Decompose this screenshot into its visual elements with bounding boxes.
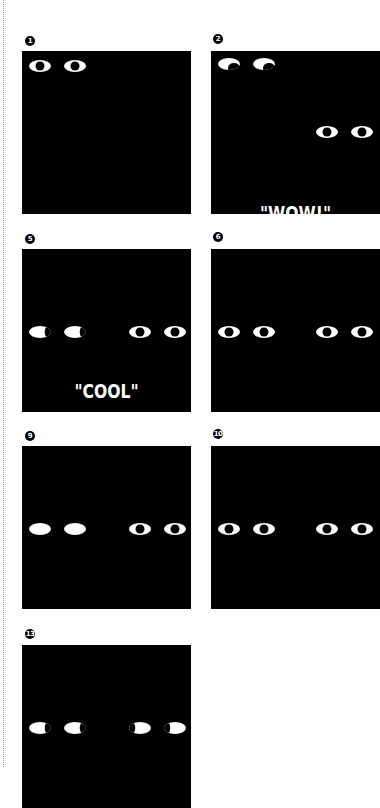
pupil-icon (358, 128, 367, 137)
pupil-icon (164, 722, 170, 734)
pupil-icon (45, 326, 51, 338)
pupil-icon (358, 328, 367, 337)
pupil-icon (171, 525, 180, 534)
eye-open-icon (351, 126, 373, 138)
eye-open-icon (351, 523, 373, 535)
eye-solid-icon (29, 523, 51, 535)
eye-crescent-left-icon (29, 722, 51, 734)
pupil-icon (136, 525, 145, 534)
pupil-icon (36, 62, 45, 71)
panel-number-1: 1 (25, 36, 35, 46)
eye-glance-icon (218, 58, 240, 70)
pupil-icon (80, 326, 86, 338)
panel-number-13: 13 (25, 629, 35, 639)
panel-number-5: 5 (25, 234, 35, 244)
eye-glance-icon (253, 58, 275, 70)
eye-open-icon (218, 326, 240, 338)
panel-number-9: 9 (25, 431, 35, 441)
pupil-icon (225, 328, 234, 337)
eye-open-icon (164, 326, 186, 338)
comic-panel-13 (22, 645, 191, 808)
comic-panel-10 (211, 446, 380, 609)
caption-cool: "COOL" (41, 379, 173, 403)
eye-open-icon (351, 326, 373, 338)
pupil-icon (129, 722, 135, 734)
eye-crescent-left-icon (64, 722, 86, 734)
pupil-icon (136, 328, 145, 337)
eye-open-icon (29, 60, 51, 72)
pupil-icon (323, 525, 332, 534)
pupil-icon (260, 525, 269, 534)
pupil-icon (80, 722, 86, 734)
pupil-icon (323, 328, 332, 337)
panel-number-6: 6 (213, 232, 223, 242)
comic-panel-1 (22, 51, 191, 214)
pupil-icon (225, 525, 234, 534)
dotted-margin-line (3, 0, 4, 767)
eye-open-icon (218, 523, 240, 535)
pupil-icon (358, 525, 367, 534)
pupil-icon (260, 328, 269, 337)
eye-open-icon (164, 523, 186, 535)
eye-open-icon (316, 523, 338, 535)
eye-open-icon (316, 326, 338, 338)
eye-open-icon (316, 126, 338, 138)
caption-wow: "WOW!" (230, 201, 362, 214)
comic-panel-9 (22, 446, 191, 609)
eye-crescent-right-icon (164, 722, 186, 734)
eye-open-icon (64, 60, 86, 72)
pupil-icon (263, 63, 275, 70)
comic-panel-6 (211, 249, 380, 412)
eye-open-icon (253, 523, 275, 535)
panel-number-10: 10 (213, 429, 223, 439)
eye-open-icon (129, 326, 151, 338)
panel-number-2: 2 (213, 34, 223, 44)
pupil-icon (323, 128, 332, 137)
eye-solid-icon (64, 523, 86, 535)
eye-crescent-left-icon (29, 326, 51, 338)
comic-panel-5: "COOL" (22, 249, 191, 412)
eye-open-icon (253, 326, 275, 338)
pupil-icon (71, 62, 80, 71)
eye-crescent-left-icon (64, 326, 86, 338)
pupil-icon (171, 328, 180, 337)
pupil-icon (228, 63, 240, 70)
eye-open-icon (129, 523, 151, 535)
pupil-icon (45, 722, 51, 734)
comic-panel-2: "WOW!" (211, 51, 380, 214)
eye-crescent-right-icon (129, 722, 151, 734)
